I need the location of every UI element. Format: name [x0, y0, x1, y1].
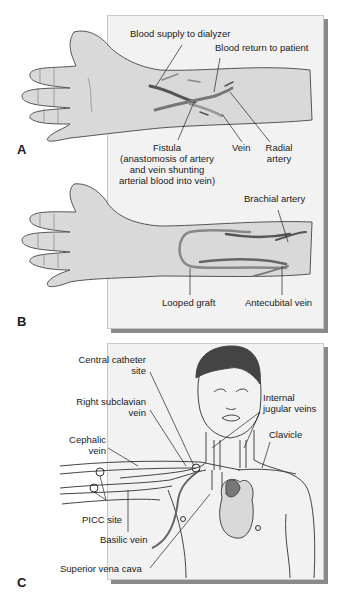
label-fistula-2: (anastomosis of artery: [114, 153, 220, 164]
label-blood-return: Blood return to patient: [215, 42, 308, 53]
panel-letter-b: B: [17, 314, 26, 329]
label-fistula-3: and vein shunting: [114, 164, 220, 175]
torso-c-illustration: [120, 346, 315, 578]
label-radial-2: artery: [262, 153, 296, 164]
label-superior-vena-cava: Superior vena cava: [60, 563, 142, 574]
label-right-subclavian-2: vein: [60, 407, 146, 418]
label-cephalic-2: vein: [50, 445, 106, 456]
label-brachial-artery: Brachial artery: [244, 193, 305, 204]
label-central-catheter-1: Central catheter: [60, 354, 146, 365]
label-radial-1: Radial: [262, 142, 296, 153]
label-internal-jugular-1: Internal: [263, 392, 295, 403]
heart-icon: [220, 479, 254, 538]
label-right-subclavian-1: Right subclavian: [60, 396, 146, 407]
label-cephalic-1: Cephalic: [50, 434, 106, 445]
label-fistula-1: Fistula: [114, 142, 220, 153]
label-looped-graft: Looped graft: [162, 297, 215, 308]
panel-letter-c: C: [17, 575, 26, 590]
label-antecubital-vein: Antecubital vein: [245, 297, 312, 308]
label-vein: Vein: [232, 142, 251, 153]
label-internal-jugular-2: jugular veins: [263, 403, 316, 414]
label-clavicle: Clavicle: [269, 429, 302, 440]
label-blood-supply: Blood supply to dialyzer: [130, 28, 230, 39]
panel-letter-a: A: [17, 142, 26, 157]
label-basilic-vein: Basilic vein: [100, 534, 148, 545]
label-picc-site: PICC site: [82, 514, 122, 525]
label-central-catheter-2: site: [60, 365, 146, 376]
label-fistula-4: arterial blood into vein): [114, 175, 220, 186]
